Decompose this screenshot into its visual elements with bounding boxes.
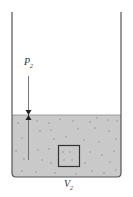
volume-label: V2 — [64, 178, 73, 191]
container-diagram — [0, 0, 133, 197]
arrowhead-down-icon — [26, 110, 32, 115]
pressure-label: P2 — [24, 56, 33, 69]
